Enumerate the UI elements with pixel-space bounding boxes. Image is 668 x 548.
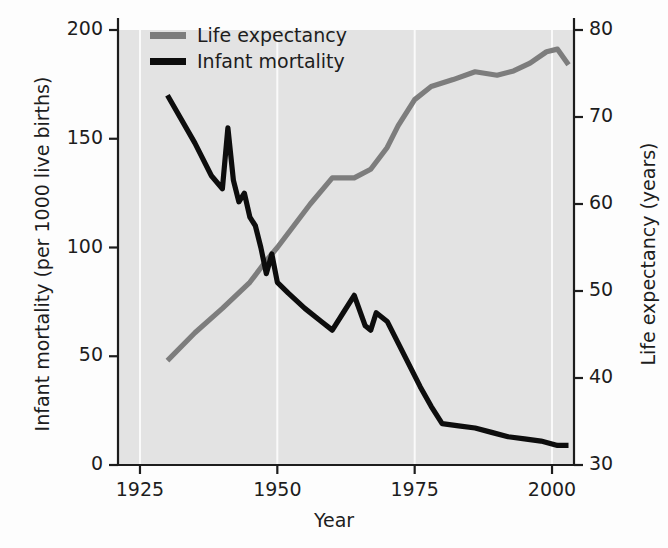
plot-background-group bbox=[118, 30, 574, 465]
y-tick-label-left-100: 100 bbox=[43, 235, 103, 257]
chart-figure: Infant mortality (per 1000 live births) … bbox=[0, 0, 668, 548]
x-tick-label-1950: 1950 bbox=[237, 478, 317, 500]
y-tick-label-left-200: 200 bbox=[43, 17, 103, 39]
y-tick-label-left-150: 150 bbox=[43, 126, 103, 148]
y-tick-label-right-50: 50 bbox=[589, 278, 649, 300]
y-tick-label-right-30: 30 bbox=[589, 452, 649, 474]
y-tick-label-left-50: 50 bbox=[43, 343, 103, 365]
legend-item-infant-mortality: Infant mortality bbox=[150, 48, 347, 74]
y-tick-label-right-40: 40 bbox=[589, 365, 649, 387]
y-tick-label-right-70: 70 bbox=[589, 104, 649, 126]
legend-label-life-expectancy: Life expectancy bbox=[197, 24, 347, 46]
plot-background bbox=[118, 30, 574, 465]
chart-legend: Life expectancy Infant mortality bbox=[150, 22, 347, 74]
y-tick-label-right-80: 80 bbox=[589, 17, 649, 39]
x-tick-label-2000: 2000 bbox=[512, 478, 592, 500]
y-tick-label-left-0: 0 bbox=[43, 452, 103, 474]
legend-swatch-life-expectancy bbox=[150, 32, 186, 39]
x-tick-label-1975: 1975 bbox=[375, 478, 455, 500]
legend-swatch-infant-mortality bbox=[150, 58, 186, 65]
x-tick-label-1925: 1925 bbox=[100, 478, 180, 500]
legend-item-life-expectancy: Life expectancy bbox=[150, 22, 347, 48]
legend-label-infant-mortality: Infant mortality bbox=[197, 50, 345, 72]
y-tick-label-right-60: 60 bbox=[589, 191, 649, 213]
